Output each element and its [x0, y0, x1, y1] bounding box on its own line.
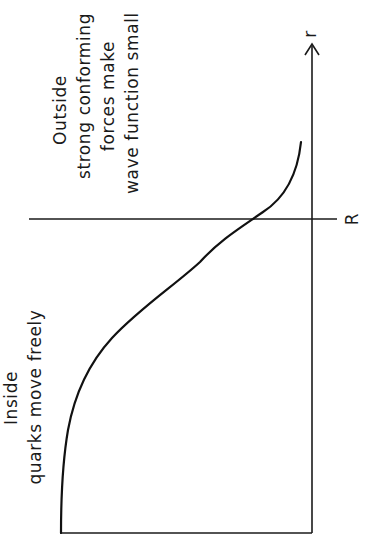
- inside-label-group: Inside quarks move freely: [1, 309, 45, 484]
- boundary-r-label: R: [342, 213, 362, 225]
- outside-title: Outside: [50, 75, 70, 145]
- wave-function-diagram: r R Outside strong conforming forces mak…: [0, 0, 380, 535]
- inside-line-1: quarks move freely: [25, 309, 45, 484]
- inside-title: Inside: [1, 371, 21, 425]
- wave-function-curve: [61, 142, 301, 533]
- outside-line-3: wave function small: [122, 12, 142, 194]
- outside-line-1: strong conforming: [74, 13, 94, 179]
- outside-line-2: forces make: [98, 41, 118, 151]
- r-axis-label: r: [300, 30, 320, 38]
- outside-label-group: Outside strong conforming forces make wa…: [50, 12, 142, 194]
